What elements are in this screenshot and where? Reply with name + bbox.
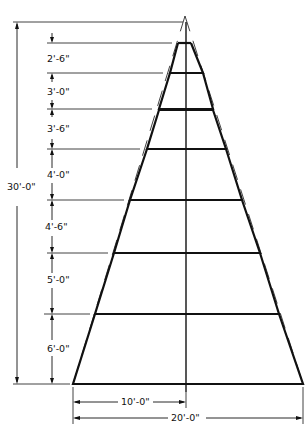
tier-label-2: 3'-0" (46, 87, 71, 97)
overall-height-label: 30'-0" (6, 182, 37, 192)
tier-7 (73, 314, 303, 384)
tier-label-5: 4'-6" (44, 222, 69, 232)
base-width-label: 20'-0" (170, 413, 201, 423)
tier-label-1: 2'-6" (46, 54, 71, 64)
overall-height-dimension (15, 22, 19, 384)
tier-6 (95, 253, 279, 314)
tier-label-7: 6'-0" (46, 344, 71, 354)
tier-5 (114, 200, 260, 253)
tier-label-4: 4'-0" (46, 170, 71, 180)
tier-label-3: 3'-6" (46, 124, 71, 134)
tier-label-6: 5'-0" (46, 275, 71, 285)
diagram-canvas (0, 0, 305, 427)
tier-outlines (73, 43, 303, 384)
half-base-label: 10'-0" (120, 397, 151, 407)
tapered-tiers-diagram: 30'-0" 2'-6" 3'-0" 3'-6" 4'-0" 4'-6" 5'-… (0, 0, 305, 427)
